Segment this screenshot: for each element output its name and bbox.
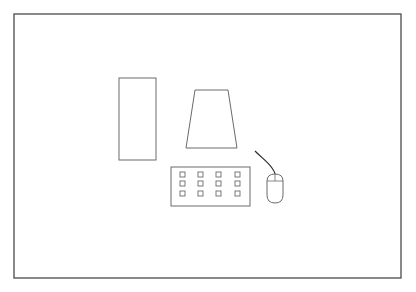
keyboard-key [180,191,185,196]
keyboard-key [235,191,240,196]
keyboard-key [180,172,185,177]
keyboard-key [216,191,221,196]
mouse-icon [255,151,283,203]
diagram-canvas [0,0,416,292]
keyboard-key [198,191,203,196]
keyboard-key [198,172,203,177]
monitor-icon [186,90,237,148]
keyboard-keys [180,172,240,196]
keyboard-icon [171,167,250,206]
computer-tower-icon [119,78,156,160]
mouse-cord [255,151,275,174]
keyboard-key [235,181,240,186]
frame-border [14,14,401,278]
keyboard-key [216,181,221,186]
keyboard-key [216,172,221,177]
keyboard-key [180,181,185,186]
keyboard-key [198,181,203,186]
keyboard-key [235,172,240,177]
